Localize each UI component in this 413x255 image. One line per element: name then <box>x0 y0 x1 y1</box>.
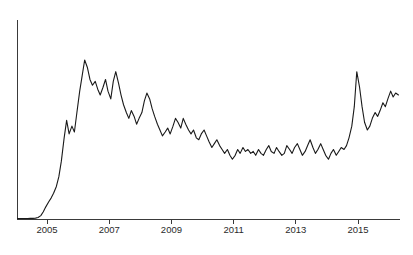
series-group <box>18 60 399 219</box>
axes-group <box>17 20 400 220</box>
data-line-series-1 <box>18 60 399 219</box>
x-tick-label-2009: 2009 <box>161 224 182 235</box>
x-axis-tick-labels: 200520072009201120132015 <box>36 224 368 235</box>
x-axis-ticks <box>47 220 358 224</box>
x-tick-label-2011: 2011 <box>223 224 243 235</box>
x-tick-label-2007: 2007 <box>99 224 120 235</box>
x-tick-label-2013: 2013 <box>285 224 306 235</box>
x-tick-label-2005: 2005 <box>36 224 57 235</box>
x-tick-label-2015: 2015 <box>347 224 368 235</box>
chart-container: 200520072009201120132015 <box>0 0 413 255</box>
line-chart: 200520072009201120132015 <box>0 0 413 255</box>
